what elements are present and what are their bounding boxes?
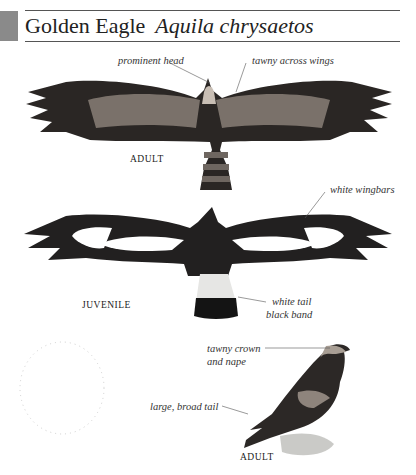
juvenile-eagle-flight-illustration bbox=[24, 207, 392, 319]
label-white-wingbars: white wingbars bbox=[330, 183, 394, 196]
background-dotted-pattern bbox=[20, 342, 104, 434]
label-black-band: black band bbox=[266, 308, 312, 321]
label-prominent-head: prominent head bbox=[118, 54, 184, 67]
caption-adult-perched: ADULT bbox=[240, 452, 274, 462]
caption-adult-flight: ADULT bbox=[130, 154, 164, 164]
adult-eagle-flight-illustration bbox=[26, 78, 392, 190]
adult-eagle-perched-illustration bbox=[244, 344, 350, 455]
label-tawny-across-wings: tawny across wings bbox=[252, 54, 334, 67]
label-large-broad-tail: large, broad tail bbox=[150, 400, 218, 413]
caption-juvenile: JUVENILE bbox=[82, 300, 131, 310]
label-tawny-crown: tawny crown bbox=[207, 342, 261, 355]
label-white-tail: white tail bbox=[272, 295, 311, 308]
label-and-nape: and nape bbox=[207, 355, 246, 368]
